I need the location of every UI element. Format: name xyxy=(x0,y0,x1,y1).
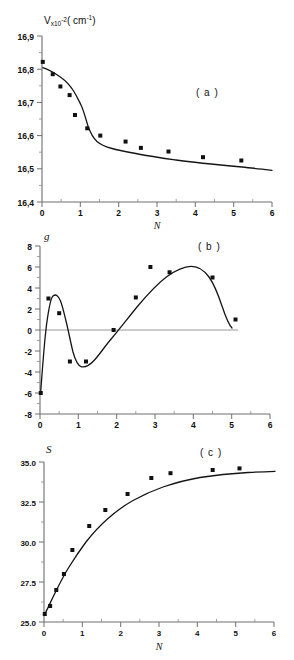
ylabel-x: x10 xyxy=(51,20,62,27)
data-point xyxy=(211,276,215,280)
panel-a-ylabel: Vx10-2( cm-1) xyxy=(44,14,96,27)
panel-b-y-ticks xyxy=(35,246,40,414)
data-point xyxy=(39,391,43,395)
panel-b-ylabel: g xyxy=(44,230,50,242)
data-point xyxy=(124,140,128,144)
chart-panel-a: Vx10-2( cm-1) ( a ) 16,9 16,8 xyxy=(0,0,294,232)
panel-b-ytick-6: -4 xyxy=(24,368,32,378)
data-point xyxy=(51,72,55,76)
panel-c-xtick-3: 3 xyxy=(157,629,162,638)
data-point xyxy=(73,113,77,117)
panel-c-xtick-2: 2 xyxy=(118,629,123,638)
panel-b-x-ticks xyxy=(40,411,270,419)
panel-c-ytick-2: 30.0 xyxy=(20,539,36,548)
data-point xyxy=(70,548,74,552)
panel-c-ytick-0: 35.0 xyxy=(20,459,36,468)
data-point xyxy=(149,476,153,480)
data-point xyxy=(126,492,130,496)
panel-a-ytick-2: 16,7 xyxy=(17,98,34,108)
panel-b-ytick-2: 4 xyxy=(27,284,32,294)
panel-a-fit-curve xyxy=(43,68,272,171)
data-point xyxy=(68,93,72,97)
data-point xyxy=(239,159,243,163)
data-point xyxy=(112,328,116,332)
panel-c-ytick-4: 25.0 xyxy=(20,619,36,628)
panel-c-xtick-4: 4 xyxy=(195,629,200,638)
panel-c-ytick-1: 32.5 xyxy=(20,499,36,508)
data-point xyxy=(41,60,45,64)
panel-a-svg: Vx10-2( cm-1) ( a ) 16,9 16,8 xyxy=(0,0,294,232)
chart-panel-c: S ( c ) 35.0 32.5 30.0 27.5 25 xyxy=(0,428,294,660)
panel-c-letter: ( c ) xyxy=(200,447,222,458)
panel-b-ytick-8: -8 xyxy=(24,410,32,420)
panel-a-ytick-1: 16,8 xyxy=(17,65,34,75)
panel-b-ytick-4: 0 xyxy=(27,326,32,336)
panel-c-data-points xyxy=(43,466,242,616)
data-point xyxy=(234,318,238,322)
data-point xyxy=(134,295,138,299)
panel-c-xtick-5: 5 xyxy=(233,629,238,638)
data-point xyxy=(211,468,215,472)
panel-c-ylabel: S xyxy=(46,443,52,455)
data-point xyxy=(98,134,102,138)
data-point xyxy=(148,265,152,269)
data-point xyxy=(103,508,107,512)
panel-b-svg: g ( b ) xyxy=(0,215,294,430)
panel-b-letter: ( b ) xyxy=(198,241,221,252)
panel-c-svg: S ( c ) 35.0 32.5 30.0 27.5 25 xyxy=(0,428,294,660)
data-point xyxy=(139,146,143,150)
panel-b-ytick-5: -2 xyxy=(24,347,32,357)
panel-b-ytick-3: 2 xyxy=(27,305,32,315)
figure-container: Vx10-2( cm-1) ( a ) 16,9 16,8 xyxy=(0,0,294,660)
data-point xyxy=(58,84,62,88)
panel-b-ytick-7: -6 xyxy=(24,389,32,399)
panel-c-xtick-0: 0 xyxy=(42,629,47,638)
panel-c-ytick-3: 27.5 xyxy=(20,579,36,588)
panel-c-xtick-6: 6 xyxy=(272,629,277,638)
data-point xyxy=(48,604,52,608)
panel-a-letter: ( a ) xyxy=(196,87,219,98)
data-point xyxy=(168,270,172,274)
chart-panel-b: g ( b ) xyxy=(0,215,294,430)
panel-c-x-ticks xyxy=(44,619,274,627)
data-point xyxy=(238,466,242,470)
panel-b-ytick-1: 6 xyxy=(27,263,32,273)
data-point xyxy=(201,155,205,159)
data-point xyxy=(169,471,173,475)
data-point xyxy=(62,572,66,576)
data-point xyxy=(46,297,50,301)
panel-c-y-ticks xyxy=(39,462,44,622)
data-point xyxy=(43,612,47,616)
panel-a-ytick-5: 16,4 xyxy=(17,198,34,208)
panel-a-ytick-4: 16,5 xyxy=(17,164,34,174)
panel-a-x-ticks xyxy=(42,199,272,207)
panel-a-ytick-0: 16,9 xyxy=(17,32,34,42)
panel-a-data-points xyxy=(41,60,244,163)
ylabel-unit-open: ( cm xyxy=(67,15,86,26)
panel-c-xlabel: N xyxy=(155,641,164,652)
data-point xyxy=(167,150,171,154)
panel-c-xtick-1: 1 xyxy=(80,629,85,638)
data-point xyxy=(54,588,58,592)
data-point xyxy=(68,360,72,364)
data-point xyxy=(84,360,88,364)
panel-b-ytick-0: 8 xyxy=(27,242,32,252)
data-point xyxy=(57,311,61,315)
ylabel-unit-close: ) xyxy=(92,15,95,26)
data-point xyxy=(87,524,91,528)
panel-a-ytick-3: 16,6 xyxy=(17,131,34,141)
panel-c-fit-curve xyxy=(45,471,275,614)
data-point xyxy=(85,126,89,130)
